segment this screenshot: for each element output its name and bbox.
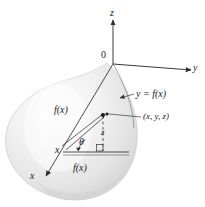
math-figure-3d-solid: z y 0 y = f(x) (x, y, z) f(x) f(x) θ z x… [0, 0, 205, 207]
base-radius-label: f(x) [73, 163, 87, 173]
y-axis-label: y [193, 63, 197, 73]
solid-of-revolution-surface [6, 63, 138, 200]
x-axis-label: x [30, 171, 34, 181]
point-marker-secondary [105, 112, 108, 115]
slant-radius-label: f(x) [54, 105, 68, 115]
point-coordinates-label: (x, y, z) [143, 112, 169, 121]
height-label: z [101, 128, 105, 137]
theta-angle-label: θ [79, 137, 84, 147]
y-axis-line [113, 64, 191, 70]
origin-label: 0 [101, 50, 106, 60]
curve-equation-label: y = f(x) [136, 89, 166, 99]
z-axis-label: z [110, 8, 114, 18]
x-vertex-label: x [55, 145, 59, 155]
point-marker [101, 113, 105, 117]
